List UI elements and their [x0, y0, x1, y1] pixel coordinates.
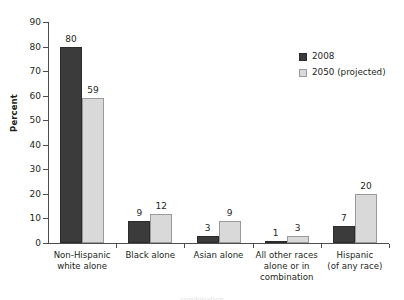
y-tick-label: 0 [3, 239, 41, 248]
y-tick-mark [43, 47, 48, 48]
y-tick-mark [43, 22, 48, 23]
y-tick-mark [43, 169, 48, 170]
y-tick-label: 40 [3, 141, 41, 150]
bar-2050-group-4 [287, 236, 309, 243]
y-tick-label: 70 [3, 67, 41, 76]
legend-item-2050: 2050 (projected) [299, 66, 386, 79]
y-tick-label: 50 [3, 116, 41, 125]
x-tick-mark [184, 244, 185, 248]
y-tick-label: 90 [3, 18, 41, 27]
bar-2050-group-3 [219, 221, 241, 243]
bar-2008-group-5 [333, 226, 355, 243]
bar-value-label: 80 [54, 35, 88, 44]
category-label-5: Hispanic(of any race) [315, 250, 395, 272]
bar-2050-group-5 [355, 194, 377, 243]
category-label-line: (of any race) [315, 261, 395, 272]
category-label-line: combination [247, 272, 327, 283]
bar-2050-group-2 [150, 214, 172, 243]
bar-value-label: 59 [76, 86, 110, 95]
y-tick-label: 60 [3, 92, 41, 101]
bar-chart: Percent 0102030405060708090 805991239137… [0, 0, 404, 300]
y-tick-mark [43, 145, 48, 146]
y-tick-label: 20 [3, 190, 41, 199]
x-axis-line [48, 243, 389, 244]
bar-value-label: 20 [349, 182, 383, 191]
legend-swatch-icon-2050 [299, 69, 307, 77]
y-tick-label: 10 [3, 214, 41, 223]
category-label-line: Hispanic [315, 250, 395, 261]
y-tick-mark [43, 243, 48, 244]
x-tick-mark [389, 244, 390, 248]
bar-2050-group-1 [82, 98, 104, 243]
bar-value-label: 3 [281, 224, 315, 233]
bar-2008-group-2 [128, 221, 150, 243]
y-axis-title: Percent [9, 78, 19, 148]
bar-value-label: 12 [144, 202, 178, 211]
bottom-caption: combination [0, 296, 404, 300]
y-tick-label: 80 [3, 43, 41, 52]
y-axis-line [48, 22, 49, 244]
y-tick-label: 30 [3, 165, 41, 174]
y-tick-mark [43, 96, 48, 97]
chart-legend: 2008 2050 (projected) [299, 50, 386, 82]
x-tick-mark [253, 244, 254, 248]
bar-2008-group-4 [265, 241, 287, 243]
y-tick-mark [43, 218, 48, 219]
bar-2008-group-3 [197, 236, 219, 243]
y-tick-mark [43, 194, 48, 195]
y-tick-mark [43, 120, 48, 121]
bar-value-label: 9 [213, 209, 247, 218]
legend-label-2008: 2008 [312, 52, 334, 61]
x-tick-mark [116, 244, 117, 248]
y-tick-mark [43, 71, 48, 72]
legend-item-2008: 2008 [299, 50, 386, 63]
x-tick-mark [321, 244, 322, 248]
bar-2008-group-1 [60, 47, 82, 243]
legend-label-2050: 2050 (projected) [312, 68, 386, 77]
category-label-line: white alone [42, 261, 122, 272]
legend-swatch-icon-2008 [299, 53, 307, 61]
